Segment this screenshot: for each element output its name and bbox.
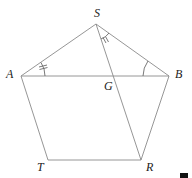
label-R: R bbox=[145, 160, 154, 174]
label-S: S bbox=[94, 6, 100, 20]
label-G: G bbox=[104, 79, 113, 93]
label-A: A bbox=[5, 67, 14, 81]
label-T: T bbox=[37, 160, 45, 174]
pentagon-diagram: S A B G T R bbox=[0, 0, 192, 178]
segment-SA bbox=[21, 24, 96, 76]
label-B: B bbox=[175, 67, 183, 81]
segment-SB bbox=[96, 24, 169, 76]
segment-RB bbox=[141, 76, 169, 160]
angle-mark-A bbox=[39, 63, 48, 77]
angle-mark-B bbox=[143, 61, 148, 76]
segment-SR bbox=[96, 24, 141, 160]
diagram-svg: S A B G T R bbox=[0, 0, 192, 178]
end-marker-square bbox=[180, 173, 188, 178]
segment-AT bbox=[21, 76, 48, 160]
